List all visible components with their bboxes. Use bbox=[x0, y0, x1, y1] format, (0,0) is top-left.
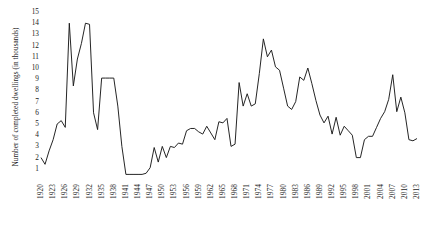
x-tick-label: 1935 bbox=[98, 184, 106, 199]
x-tick-label: 1971 bbox=[243, 184, 251, 199]
y-tick-label: 6 bbox=[35, 109, 39, 117]
x-tick-label: 1923 bbox=[49, 184, 57, 199]
y-tick-label: 10 bbox=[32, 64, 39, 72]
line-chart: Number of completed dwellings (in thousa… bbox=[0, 0, 422, 235]
y-tick-label: 14 bbox=[32, 19, 39, 27]
y-tick-label: 7 bbox=[35, 98, 39, 106]
x-tick-label: 1977 bbox=[267, 184, 275, 199]
x-tick-label: 1980 bbox=[280, 184, 288, 199]
y-tick-label: 11 bbox=[32, 53, 39, 61]
x-tick-label: 2007 bbox=[389, 184, 397, 199]
x-tick-label: 1953 bbox=[170, 184, 178, 199]
x-tick-label: 2013 bbox=[413, 184, 421, 199]
x-tick-label: 1965 bbox=[219, 184, 227, 199]
y-tick-label: 15 bbox=[32, 8, 39, 16]
x-tick-label: 1947 bbox=[146, 184, 154, 199]
x-tick-label: 1992 bbox=[328, 184, 336, 199]
y-tick-label: 12 bbox=[32, 42, 39, 50]
x-tick-label: 1983 bbox=[292, 184, 300, 199]
y-axis-title: Number of completed dwellings (in thousa… bbox=[9, 4, 23, 190]
y-tick-label: 5 bbox=[35, 120, 39, 128]
x-tick-label: 1926 bbox=[61, 184, 69, 199]
y-tick-label: 13 bbox=[32, 30, 39, 38]
y-axis-tick-labels: 123456789101112131415 bbox=[24, 12, 39, 180]
y-tick-label: 9 bbox=[35, 75, 39, 83]
x-tick-label: 1998 bbox=[352, 184, 360, 199]
plot-area bbox=[41, 12, 417, 180]
x-tick-label: 1986 bbox=[304, 184, 312, 199]
x-tick-label: 1944 bbox=[134, 184, 142, 199]
x-tick-label: 1950 bbox=[158, 184, 166, 199]
x-tick-label: 1989 bbox=[316, 184, 324, 199]
x-tick-label: 1968 bbox=[231, 184, 239, 199]
series-path-completed-dwellings bbox=[41, 23, 417, 174]
y-tick-label: 4 bbox=[35, 131, 39, 139]
x-tick-label: 1929 bbox=[73, 184, 81, 199]
x-tick-label: 1920 bbox=[37, 184, 45, 199]
series-line bbox=[41, 12, 417, 180]
x-axis-tick-labels: 1920192319261929193219351938194119441947… bbox=[41, 184, 417, 230]
x-tick-label: 1941 bbox=[122, 184, 130, 199]
x-tick-label: 1959 bbox=[195, 184, 203, 199]
x-tick-label: 2004 bbox=[377, 184, 385, 199]
y-tick-label: 1 bbox=[35, 165, 39, 173]
y-tick-label: 8 bbox=[35, 86, 39, 94]
x-tick-label: 1995 bbox=[340, 184, 348, 199]
x-tick-label: 1932 bbox=[86, 184, 94, 199]
x-tick-label: 1974 bbox=[255, 184, 263, 199]
x-tick-label: 1962 bbox=[207, 184, 215, 199]
x-tick-label: 2001 bbox=[364, 184, 372, 199]
x-tick-label: 1956 bbox=[183, 184, 191, 199]
y-tick-label: 3 bbox=[35, 142, 39, 150]
x-tick-label: 1938 bbox=[110, 184, 118, 199]
x-tick-label: 2010 bbox=[401, 184, 409, 199]
y-tick-label: 2 bbox=[35, 154, 39, 162]
